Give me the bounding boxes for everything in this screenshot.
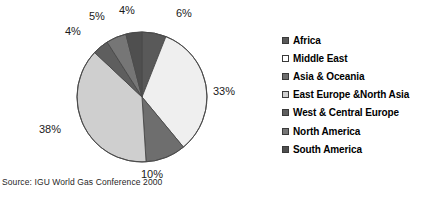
chart-area: 6% 33% 10% 38% 4% 5% 4% Source: IGU Worl… [0,0,268,197]
legend-item-east-europe-north-asia[interactable]: East Europe &North Asia [282,86,442,104]
legend-swatch-icon [282,55,289,62]
legend-swatch-icon [282,73,289,80]
value-label-east-europe-north-asia: 38% [39,123,61,135]
legend-swatch-icon [282,37,289,44]
legend-item-north-america[interactable]: North America [282,122,442,140]
legend-item-label: East Europe &North Asia [293,89,409,100]
value-label-middle-east: 33% [213,85,235,97]
value-label-south-america: 4% [119,4,135,16]
legend-item-label: Asia & Oceania [293,71,364,82]
source-note: Source: IGU World Gas Conference 2000 [2,177,162,187]
chart-legend: Africa Middle East Asia & Oceania East E… [282,31,442,158]
pie-chart-figure: 6% 33% 10% 38% 4% 5% 4% Source: IGU Worl… [0,0,444,197]
legend-item-label: Middle East [293,53,347,64]
legend-item-label: North America [293,126,360,137]
legend-item-south-america[interactable]: South America [282,140,442,158]
value-label-north-america: 5% [89,10,105,22]
pie-chart-graphic [0,0,268,197]
legend-swatch-icon [282,109,289,116]
legend-item-middle-east[interactable]: Middle East [282,49,442,67]
legend-swatch-icon [282,128,289,135]
legend-item-west-central-europe[interactable]: West & Central Europe [282,104,442,122]
legend-item-asia-oceania[interactable]: Asia & Oceania [282,67,442,85]
legend-swatch-icon [282,91,289,98]
legend-swatch-icon [282,146,289,153]
value-label-west-central-europe: 4% [65,25,81,37]
pie-slices [77,32,207,162]
legend-item-label: South America [293,144,362,155]
legend-item-label: Africa [293,35,321,46]
value-label-africa: 6% [176,7,192,19]
legend-item-label: West & Central Europe [293,107,399,118]
legend-item-africa[interactable]: Africa [282,31,442,49]
